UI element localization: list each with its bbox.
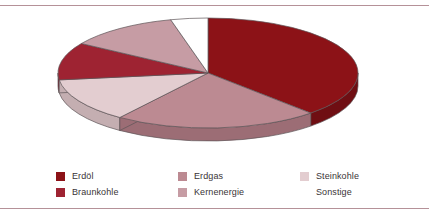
legend-item-sonstige[interactable]: Sonstige — [300, 184, 396, 200]
legend-label-braunkohle: Braunkohle — [72, 187, 119, 198]
legend-label-steinkohle: Steinkohle — [316, 171, 359, 182]
legend-label-kernenergie: Kernenergie — [194, 187, 244, 198]
legend-swatch-kernenergie — [178, 188, 187, 197]
pie-chart-svg — [0, 0, 429, 170]
legend-item-kernenergie[interactable]: Kernenergie — [178, 184, 300, 200]
legend-swatch-braunkohle — [56, 188, 65, 197]
pie-chart-plot-area — [0, 0, 429, 170]
legend-swatch-erdoel — [56, 172, 65, 181]
legend-item-erdgas[interactable]: Erdgas — [178, 168, 300, 184]
legend-swatch-sonstige — [300, 188, 309, 197]
legend-swatch-steinkohle — [300, 172, 309, 181]
chart-legend: Erdöl Erdgas Steinkohle Braunkohle Kerne… — [56, 168, 396, 200]
legend-item-erdoel[interactable]: Erdöl — [56, 168, 178, 184]
pie-chart-figure: Erdöl Erdgas Steinkohle Braunkohle Kerne… — [0, 0, 429, 224]
legend-item-steinkohle[interactable]: Steinkohle — [300, 168, 396, 184]
legend-label-erdoel: Erdöl — [72, 171, 94, 182]
legend-swatch-erdgas — [178, 172, 187, 181]
bottom-divider-rule — [0, 208, 429, 209]
legend-label-sonstige: Sonstige — [316, 187, 352, 198]
legend-item-braunkohle[interactable]: Braunkohle — [56, 184, 178, 200]
legend-label-erdgas: Erdgas — [194, 171, 223, 182]
